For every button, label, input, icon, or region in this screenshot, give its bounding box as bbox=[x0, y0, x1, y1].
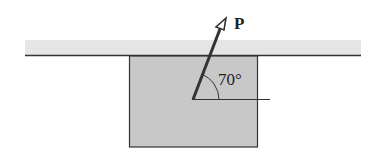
force-label: P bbox=[234, 14, 244, 34]
force-diagram bbox=[0, 0, 382, 156]
angle-label: 70° bbox=[218, 70, 242, 90]
force-arrow-head bbox=[216, 18, 226, 30]
ceiling-surface-band bbox=[25, 40, 361, 55]
